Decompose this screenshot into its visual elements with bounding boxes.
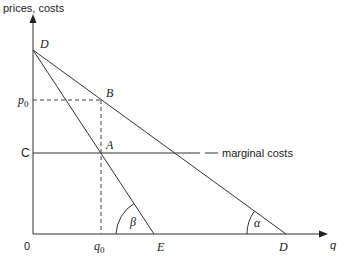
beta-label: β [129,215,136,229]
point-a: A [105,138,114,152]
alpha-label: α [254,216,261,230]
origin-label: 0 [24,240,30,252]
y-axis-label: prices, costs [3,2,65,14]
marginal-revenue-line [33,50,154,234]
y-axis-arrow-icon [30,14,37,23]
point-d-right: D [278,240,288,254]
marginal-costs-label: marginal costs [222,147,293,159]
x-axis-arrow-icon [319,231,328,238]
point-e: E [156,240,165,254]
x-axis-label: q [330,239,337,251]
demand-line [33,50,286,234]
point-c: C [21,146,30,160]
point-d-top: D [39,37,49,51]
p0-label: p0 [17,93,29,109]
economics-diagram: prices, costs q 0 D B A C E D p0 q0 marg… [0,0,346,258]
q0-label: q0 [94,239,105,255]
point-b: B [106,86,114,100]
